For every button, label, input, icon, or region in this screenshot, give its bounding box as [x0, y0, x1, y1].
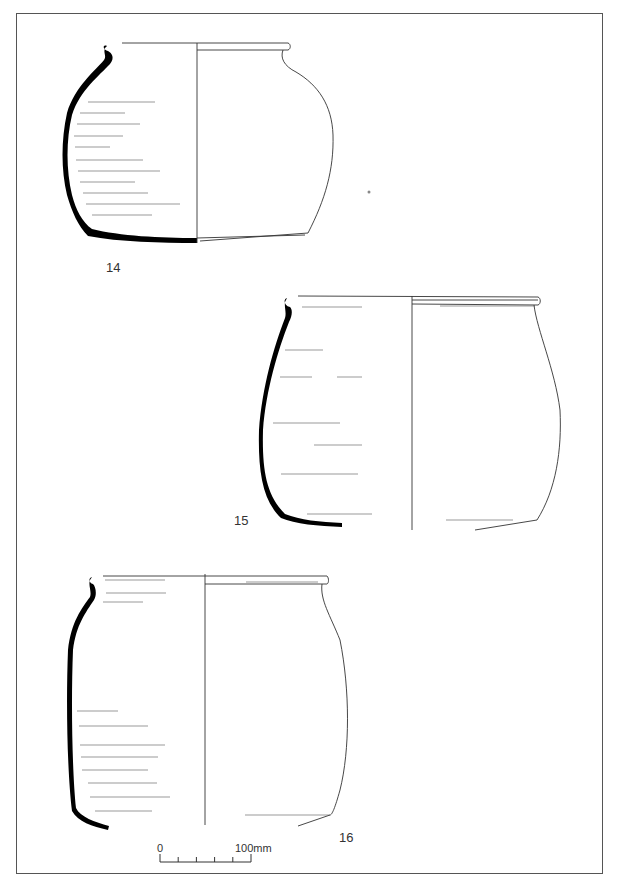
- vessel-14-section: [63, 46, 198, 243]
- scale-bar-start-label: 0: [157, 842, 163, 854]
- vessel-15-striations: [273, 306, 535, 520]
- vessel-16-striations: [77, 580, 330, 815]
- vessel-15-exterior: [475, 305, 560, 530]
- vessel-16-section: [67, 577, 109, 830]
- vessel-15-rim: [298, 296, 540, 305]
- vessel-14-rim: [122, 43, 290, 50]
- vessel-15-label: 15: [234, 513, 248, 528]
- pottery-drawing: [0, 0, 620, 889]
- vessel-15-section: [259, 298, 342, 527]
- scale-bar: [160, 854, 251, 862]
- vessel-14-label: 14: [106, 260, 120, 275]
- vessel-16-label: 16: [339, 830, 353, 845]
- speck: [368, 191, 371, 194]
- vessel-14: [63, 43, 371, 243]
- vessel-14-striations: [74, 102, 180, 215]
- vessel-16-exterior: [298, 584, 348, 826]
- vessel-15: [259, 296, 561, 530]
- vessel-16: [67, 574, 347, 830]
- scale-bar-end-label: 100mm: [235, 842, 272, 854]
- vessel-14-exterior: [197, 50, 333, 241]
